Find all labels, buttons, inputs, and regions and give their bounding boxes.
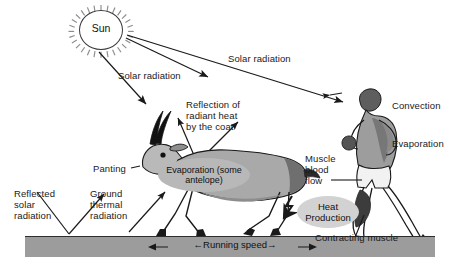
running-speed-label: ←Running speed→	[155, 239, 315, 250]
contracting-muscle-label: Contracting muscle	[315, 232, 398, 243]
evaporation-antelope-callout: Evaporation (some antelope)	[158, 158, 250, 192]
heat-production-label: Heat Production	[297, 201, 359, 223]
heat-production-callout: Heat Production	[297, 196, 359, 228]
convection-tick	[330, 93, 342, 95]
arrow-sun-to-human	[127, 35, 343, 102]
reflection-radiant-heat-label: Reflection of radiant heat by the coat	[186, 99, 240, 132]
muscle-blood-flow-label: Muscle blood flow	[305, 153, 336, 186]
evaporation-human-label: Evaporation	[392, 138, 444, 149]
solar-radiation-right-label: Solar radiation	[228, 53, 291, 64]
panting-leader-line	[131, 166, 140, 168]
reflected-solar-radiation-label: Reflected solar radiation	[14, 188, 55, 221]
convection-label: Convection	[392, 100, 441, 111]
solar-radiation-left-label: Solar radiation	[118, 70, 181, 81]
evaporation-antelope-label: Evaporation (some antelope)	[158, 165, 250, 185]
thermoregulation-diagram: Sun Solar radiation Solar radiation Refl…	[0, 0, 462, 280]
panting-label: Panting	[93, 163, 126, 174]
arrow-ground-thermal-radiation	[129, 192, 165, 232]
ground-thermal-radiation-label: Ground thermal radiation	[90, 188, 127, 221]
sun-label: Sun	[79, 22, 123, 34]
